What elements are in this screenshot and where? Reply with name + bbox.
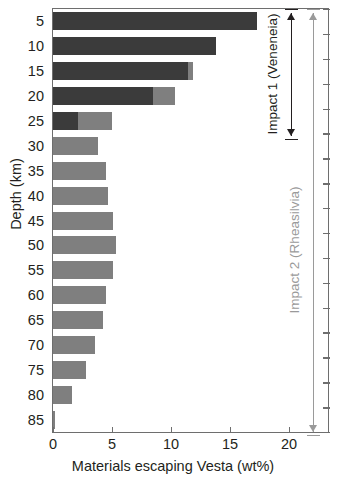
x-tick-label: 5 (92, 436, 132, 452)
bar-segment (53, 386, 72, 404)
bar-row (53, 411, 55, 429)
bar-row (53, 137, 98, 155)
bar-segment (53, 87, 153, 105)
right-tick-mark (323, 183, 330, 184)
annotation-label-impact-2: Impact 2 (Rheasilvia) (287, 187, 302, 314)
x-tick-label: 0 (33, 436, 73, 452)
y-tick-label: 15 (0, 64, 44, 78)
bar-segment (53, 112, 78, 130)
bar-row (53, 37, 216, 55)
annotation-label-impact-1: Impact 1 (Veneneia) (265, 14, 280, 135)
bar-row (53, 162, 106, 180)
bar-row (53, 187, 108, 205)
annotation-range-line (313, 13, 314, 432)
annotation-range-line (291, 13, 292, 136)
right-tick-mark (323, 283, 330, 284)
annotation-arrow-up-icon (309, 13, 317, 20)
x-tick-mark (53, 427, 54, 433)
x-tick-label: 10 (151, 436, 191, 452)
x-tick-mark (112, 427, 113, 433)
right-tick-mark (323, 233, 330, 234)
bar-segment (53, 162, 106, 180)
bar-segment (53, 37, 216, 55)
bar-segment (53, 12, 257, 30)
y-tick-label: 65 (0, 313, 44, 327)
right-tick-mark (323, 84, 330, 85)
y-tick-label: 25 (0, 114, 44, 128)
y-tick-label: 55 (0, 263, 44, 277)
annotation-cap (285, 139, 298, 140)
bar-row (53, 336, 95, 354)
bar-segment (53, 361, 86, 379)
bar-segment (53, 286, 106, 304)
bar-segment (53, 137, 98, 155)
right-tick-mark (323, 382, 330, 383)
bar-segment (53, 261, 113, 279)
right-tick-mark (323, 407, 330, 408)
bar-segment (53, 62, 188, 80)
bar-row (53, 386, 72, 404)
bar-segment (53, 336, 95, 354)
y-tick-label: 10 (0, 39, 44, 53)
y-tick-label: 20 (0, 89, 44, 103)
x-tick-mark (230, 427, 231, 433)
right-tick-mark (323, 432, 330, 433)
annotation-arrow-down-icon (309, 425, 317, 432)
y-tick-label: 60 (0, 288, 44, 302)
y-axis-title: Depth (km) (8, 134, 24, 254)
right-tick-mark (323, 258, 330, 259)
y-tick-label: 80 (0, 388, 44, 402)
bar-segment (53, 236, 116, 254)
x-tick-label: 20 (269, 436, 309, 452)
annotation-cap (285, 9, 298, 10)
right-tick-mark (323, 308, 330, 309)
bar-segment (53, 212, 113, 230)
x-tick-label: 15 (210, 436, 250, 452)
bar-segment (153, 87, 174, 105)
bar-segment (53, 411, 55, 429)
right-tick-mark (323, 59, 330, 60)
bar-row (53, 361, 86, 379)
annotation-arrow-up-icon (287, 13, 295, 20)
x-axis-title: Materials escaping Vesta (wt%) (0, 458, 346, 474)
annotation-cap (307, 9, 320, 10)
x-tick-mark (289, 427, 290, 433)
bar-row (53, 212, 113, 230)
bar-row (53, 112, 112, 130)
right-tick-mark (323, 332, 330, 333)
y-tick-label: 75 (0, 363, 44, 377)
right-tick-mark (323, 357, 330, 358)
right-tick-mark (323, 9, 330, 10)
bar-row (53, 311, 103, 329)
right-tick-mark (323, 133, 330, 134)
x-tick-mark (171, 427, 172, 433)
bar-row (53, 286, 106, 304)
y-tick-label: 70 (0, 338, 44, 352)
right-tick-mark (323, 34, 330, 35)
right-tick-mark (323, 109, 330, 110)
bar-row (53, 261, 113, 279)
bar-segment (53, 187, 108, 205)
bar-segment (78, 112, 112, 130)
bar-row (53, 87, 175, 105)
annotation-cap (307, 435, 320, 436)
annotation-arrow-down-icon (287, 129, 295, 136)
right-axis-ticks (322, 8, 330, 433)
right-tick-mark (323, 158, 330, 159)
figure-container: 510152025303540455055606570758085 Depth … (0, 0, 346, 494)
bar-row (53, 12, 257, 30)
x-axis-ticks: 05101520 (0, 433, 346, 453)
y-tick-label: 85 (0, 413, 44, 427)
right-tick-mark (323, 208, 330, 209)
bar-segment (53, 311, 103, 329)
y-tick-label: 5 (0, 14, 44, 28)
bar-row (53, 62, 193, 80)
bar-segment (188, 62, 194, 80)
bar-row (53, 236, 116, 254)
